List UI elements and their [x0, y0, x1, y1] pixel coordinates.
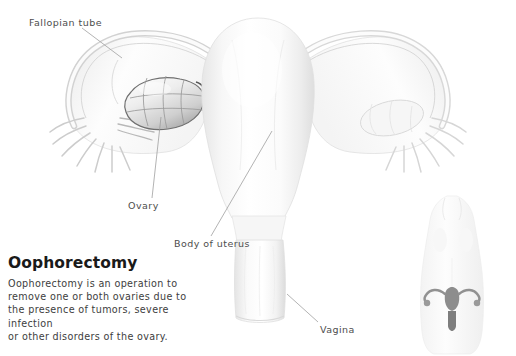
info-line: or other disorders of the ovary.	[8, 330, 208, 343]
uterus-body	[202, 18, 315, 218]
leader-vagina	[287, 294, 318, 322]
info-line: the presence of tumors, severe infection	[8, 303, 208, 329]
illustration-canvas: Fallopian tube Ovary Body of uterus Vagi…	[0, 0, 516, 356]
info-description: Oophorectomy is an operation to remove o…	[8, 277, 208, 343]
label-vagina: Vagina	[320, 324, 355, 335]
info-line: remove one or both ovaries due to	[8, 290, 208, 303]
info-title: Oophorectomy	[8, 255, 208, 272]
label-body-of-uterus: Body of uterus	[174, 238, 250, 249]
label-ovary: Ovary	[128, 200, 159, 211]
info-box: Oophorectomy Oophorectomy is an operatio…	[8, 255, 208, 343]
label-fallopian-tube: Fallopian tube	[29, 17, 102, 28]
inset-torso-figure	[421, 196, 484, 354]
vagina	[235, 240, 286, 323]
info-line: Oophorectomy is an operation to	[8, 277, 208, 290]
